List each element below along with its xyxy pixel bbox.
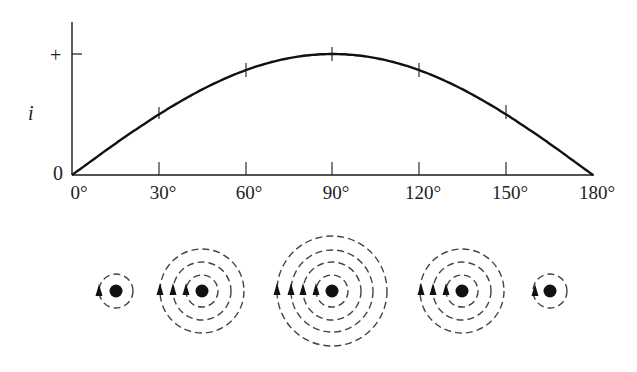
y-plus-label: + [50,44,61,66]
arrow-up-icon [532,284,539,296]
arrow-up-icon [170,283,177,295]
conductor-dots [110,285,557,298]
conductor-icon [110,285,123,298]
svg-text:120°: 120° [405,182,441,203]
y-zero-label: 0 [53,162,63,184]
arrow-up-icon [418,283,425,295]
arrow-up-icon [96,284,103,296]
y-axis-label: i [28,102,34,124]
svg-text:180°: 180° [579,182,615,203]
conductor-icon [456,285,469,298]
svg-text:90°: 90° [323,182,350,203]
sine-current-diagram: i + 0 0° 30° 60° 90° 120° 150° 180° [0,0,637,372]
conductor-icon [196,285,209,298]
svg-text:0°: 0° [70,182,87,203]
arrow-up-icon [300,283,307,295]
arrow-up-icon [288,283,295,295]
arrow-up-icon [183,283,190,295]
arrow-up-icon [443,283,450,295]
svg-text:60°: 60° [236,182,263,203]
conductor-icon [544,285,557,298]
arrow-up-icon [313,283,320,295]
current-curve [72,54,593,175]
arrow-up-icon [157,283,164,295]
x-ticks [159,162,506,175]
svg-text:30°: 30° [150,182,177,203]
arrow-up-icon [430,283,437,295]
curve-ticks [159,47,506,119]
arrow-up-icon [274,283,281,295]
x-tick-labels: 0° 30° 60° 90° 120° 150° 180° [70,182,615,203]
svg-text:150°: 150° [492,182,528,203]
conductor-icon [326,285,339,298]
